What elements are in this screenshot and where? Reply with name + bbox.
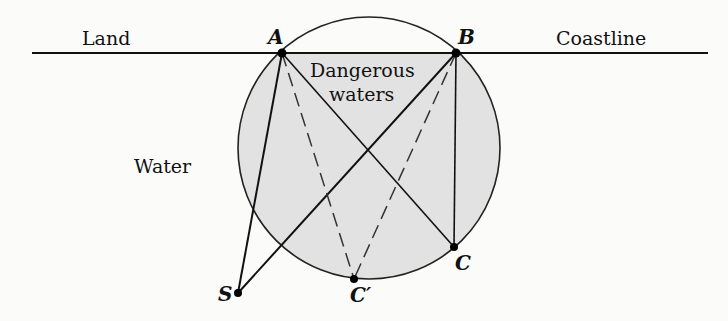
point-B — [452, 49, 461, 58]
label-coastline: Coastline — [556, 27, 646, 49]
label-dangerous: Dangerous — [310, 59, 415, 81]
label-point-A: A — [266, 25, 284, 49]
label-waters: waters — [329, 83, 394, 105]
dangerous-waters-diagram: Land Coastline Dangerous waters Water A … — [0, 0, 728, 321]
label-point-S: S — [218, 282, 232, 306]
label-point-C: C — [455, 251, 471, 275]
point-C — [450, 243, 458, 251]
label-point-Cprime: C′ — [350, 283, 372, 307]
point-A — [278, 49, 287, 58]
point-S — [234, 289, 242, 297]
point-Cprime — [350, 275, 358, 283]
label-water: Water — [134, 155, 192, 177]
label-land: Land — [82, 27, 130, 49]
label-point-B: B — [457, 25, 475, 49]
